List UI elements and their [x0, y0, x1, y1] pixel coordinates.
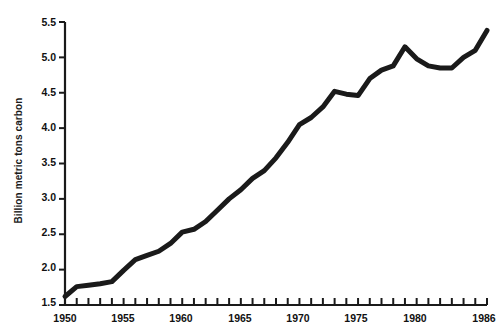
y-tick-label: 2.0: [22, 261, 56, 273]
y-tick-label: 3.0: [22, 191, 56, 203]
y-tick-label: 4.0: [22, 121, 56, 133]
y-tick-label: 5.5: [22, 16, 56, 28]
x-tick-label: 1970: [275, 312, 321, 324]
plot-area: [0, 0, 502, 333]
y-tick-label: 1.5: [22, 296, 56, 308]
y-tick-label: 4.5: [22, 86, 56, 98]
emissions-line-series: [65, 30, 487, 296]
chart-figure: Billion metric tons carbon 5.5 5.0 4.5 4…: [0, 0, 502, 333]
x-tick-label: 1975: [333, 312, 379, 324]
x-tick-label: 1955: [100, 312, 146, 324]
y-tick-label: 5.0: [22, 51, 56, 63]
x-tick-label: 1950: [42, 312, 88, 324]
x-tick-label: 1960: [158, 312, 204, 324]
x-tick-label: 1980: [392, 312, 438, 324]
x-tick-label: 1986: [461, 312, 502, 324]
y-tick-label: 2.5: [22, 226, 56, 238]
y-tick-label: 3.5: [22, 156, 56, 168]
x-tick-label: 1965: [217, 312, 263, 324]
